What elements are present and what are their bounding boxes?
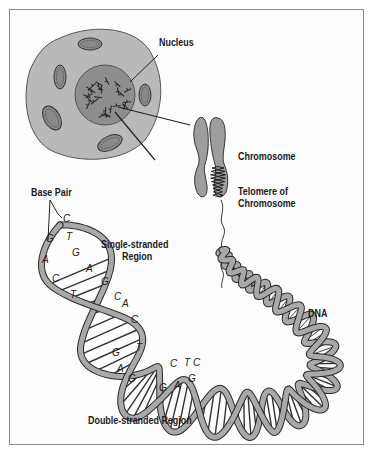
base-letter: C bbox=[193, 357, 201, 368]
single-stranded-label-line1: Single-stranded bbox=[101, 238, 168, 250]
base-letter: C bbox=[131, 314, 139, 325]
mitochondrion bbox=[139, 84, 151, 106]
base-pair-rung bbox=[215, 389, 222, 438]
nucleus-label: Nucleus bbox=[159, 36, 194, 48]
base-letter: G bbox=[46, 233, 54, 244]
chromatin-thread bbox=[221, 200, 225, 288]
base-letter: T bbox=[66, 231, 73, 242]
mitochondrion bbox=[78, 38, 102, 50]
base-letter: G bbox=[72, 247, 80, 258]
base-letter: G bbox=[112, 347, 120, 358]
base-letter: G bbox=[101, 276, 109, 287]
base-letter: T bbox=[136, 342, 143, 353]
base-letter: G bbox=[128, 373, 136, 384]
base-letter: T bbox=[70, 289, 77, 300]
base-pair-leader bbox=[50, 200, 62, 218]
telomere-label-line1: Telomere of bbox=[238, 185, 288, 197]
base-letter: A bbox=[116, 363, 124, 374]
single-stranded-label-line2: Region bbox=[122, 250, 152, 262]
base-pair-label: Base Pair bbox=[31, 186, 72, 198]
base-letter: C bbox=[63, 213, 71, 224]
base-letter: A bbox=[41, 254, 49, 265]
base-letter: A bbox=[121, 298, 129, 309]
base-letter: C bbox=[114, 291, 122, 302]
base-letter: G bbox=[159, 382, 167, 393]
base-letter: A bbox=[85, 263, 93, 274]
dna-helix bbox=[42, 225, 341, 438]
base-letter: C bbox=[52, 273, 60, 284]
base-letter: C bbox=[170, 358, 178, 369]
diagram-canvas: CGTAGCATGCACGTAGCTGAGC bbox=[0, 0, 372, 465]
base-letter: T bbox=[184, 357, 191, 368]
mitochondrion bbox=[54, 65, 66, 89]
base-pair-rung bbox=[81, 329, 139, 354]
nucleus bbox=[75, 65, 135, 125]
base-letter: G bbox=[188, 373, 196, 384]
cell bbox=[26, 29, 161, 159]
base-letter: A bbox=[173, 380, 181, 391]
dna-label: DNA bbox=[308, 307, 327, 319]
chromosome-label: Chromosome bbox=[238, 150, 296, 162]
double-stranded-label: Double-stranded Region bbox=[88, 414, 192, 426]
telomere-label-line2: Chromosome bbox=[238, 197, 296, 209]
